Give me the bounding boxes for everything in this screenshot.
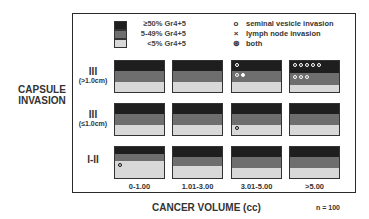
band-mid bbox=[173, 114, 222, 124]
open-circle-icon bbox=[235, 73, 239, 77]
filled-dot-icon bbox=[293, 87, 297, 91]
filled-dot-icon bbox=[148, 163, 152, 167]
cell-r0-c3 bbox=[289, 60, 340, 93]
band-hi bbox=[232, 147, 281, 157]
open-circle-icon bbox=[293, 63, 297, 67]
open-circle-icon bbox=[293, 75, 297, 79]
band-lo bbox=[173, 125, 222, 135]
y-axis-title: CAPSULE INVASION bbox=[14, 84, 70, 106]
filled-dot-icon bbox=[259, 116, 263, 120]
filled-dot-icon bbox=[293, 159, 297, 163]
band-hi bbox=[173, 104, 222, 114]
band-lo bbox=[115, 161, 164, 178]
filled-dot-icon bbox=[118, 173, 122, 177]
row-roman: III bbox=[73, 66, 113, 77]
filled-dot-icon bbox=[194, 173, 198, 177]
filled-dot-icon bbox=[176, 116, 180, 120]
band-lo bbox=[173, 166, 222, 178]
band-mid bbox=[290, 114, 339, 124]
filled-dot-icon bbox=[136, 168, 140, 172]
legend-sv-label: seminal vesicle invasion bbox=[246, 19, 334, 29]
filled-dot-icon bbox=[142, 168, 146, 172]
legend-grades: ≥50% Gr4+5 5-49% Gr4+5 <5% Gr4+5 bbox=[133, 19, 186, 49]
cell-r0-c2 bbox=[231, 60, 282, 93]
filled-dot-icon bbox=[293, 68, 297, 72]
filled-dot-icon bbox=[130, 173, 134, 177]
row-label-iii-large: III (>1.0cm) bbox=[73, 66, 113, 85]
band-lo bbox=[115, 125, 164, 135]
band-mid bbox=[115, 71, 164, 81]
band-mid bbox=[115, 154, 164, 161]
filled-dot-icon bbox=[299, 159, 303, 163]
open-circle-icon bbox=[317, 63, 321, 67]
row-roman: I-II bbox=[73, 154, 113, 165]
band-hi bbox=[115, 61, 164, 71]
legend-ln-label: lymph node invasion bbox=[246, 29, 321, 39]
col-label-2: 3.01-5.00 bbox=[231, 182, 282, 191]
band-mid bbox=[232, 71, 281, 81]
filled-dot-icon bbox=[323, 63, 327, 67]
filled-dot-icon bbox=[130, 163, 134, 167]
legend-grade-mid: 5-49% Gr4+5 bbox=[133, 29, 186, 39]
sample-size-label: n = 100 bbox=[316, 204, 340, 211]
filled-dot-icon bbox=[247, 126, 251, 130]
cell-r2-c1 bbox=[172, 146, 223, 179]
filled-dot-icon bbox=[176, 173, 180, 177]
band-mid bbox=[290, 73, 339, 85]
open-circle-icon bbox=[311, 63, 315, 67]
filled-dot-icon bbox=[241, 159, 245, 163]
cell-r1-c3 bbox=[289, 103, 340, 136]
band-lo bbox=[232, 125, 281, 135]
band-hi bbox=[232, 104, 281, 114]
filled-dot-icon bbox=[200, 168, 204, 172]
cell-r0-c1 bbox=[172, 60, 223, 93]
filled-dot-icon bbox=[247, 116, 251, 120]
open-circle-icon bbox=[235, 63, 239, 67]
circled-star-icon bbox=[241, 73, 245, 77]
cell-r0-c0 bbox=[114, 60, 165, 93]
filled-dot-icon bbox=[235, 159, 239, 163]
filled-dot-icon bbox=[124, 163, 128, 167]
band-mid bbox=[232, 114, 281, 124]
band-hi bbox=[232, 61, 281, 71]
band-hi bbox=[173, 61, 222, 71]
col-label-1: 1.01-3.00 bbox=[172, 182, 223, 191]
cell-r1-c0 bbox=[114, 103, 165, 136]
filled-dot-icon bbox=[194, 168, 198, 172]
filled-dot-icon bbox=[235, 169, 239, 173]
filled-dot-icon bbox=[118, 168, 122, 172]
filled-dot-icon bbox=[136, 163, 140, 167]
band-hi bbox=[290, 61, 339, 73]
filled-dot-icon bbox=[200, 173, 204, 177]
filled-dot-icon bbox=[124, 173, 128, 177]
open-circle-icon: o bbox=[226, 19, 246, 29]
filled-dot-icon bbox=[293, 169, 297, 173]
filled-dot-icon bbox=[212, 168, 216, 172]
filled-dot-icon bbox=[142, 173, 146, 177]
filled-dot-icon bbox=[130, 168, 134, 172]
band-lo bbox=[290, 168, 339, 178]
legend-grade-low: <5% Gr4+5 bbox=[133, 39, 186, 49]
filled-dot-icon bbox=[154, 163, 158, 167]
filled-dot-icon bbox=[142, 163, 146, 167]
x-axis-title: CANCER VOLUME (cc) bbox=[152, 202, 261, 213]
filled-dot-icon bbox=[182, 168, 186, 172]
filled-dot-icon bbox=[148, 168, 152, 172]
open-circle-icon bbox=[235, 126, 239, 130]
band-hi bbox=[115, 104, 164, 114]
cell-r2-c3 bbox=[289, 146, 340, 179]
filled-dot-icon bbox=[118, 156, 122, 160]
filled-dot-icon bbox=[182, 173, 186, 177]
filled-dot-icon bbox=[247, 159, 251, 163]
band-hi bbox=[290, 147, 339, 157]
row-sub: (≤1.0cm) bbox=[73, 120, 113, 128]
cell-r2-c0 bbox=[114, 146, 165, 179]
swatch-low-grade bbox=[114, 39, 127, 48]
band-mid bbox=[232, 157, 281, 167]
filled-dot-icon bbox=[293, 80, 297, 84]
filled-dot-icon bbox=[329, 75, 333, 79]
row-roman: III bbox=[73, 109, 113, 120]
filled-dot-icon bbox=[235, 116, 239, 120]
filled-dot-icon bbox=[253, 159, 257, 163]
filled-dot-icon bbox=[176, 126, 180, 130]
